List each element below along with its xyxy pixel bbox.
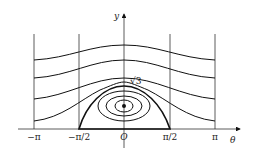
tick-half-pi: π/2 <box>163 132 178 142</box>
flow-curves <box>34 45 215 121</box>
theta-axis-label: θ <box>230 135 236 145</box>
equilibrium-point <box>122 104 126 108</box>
origin-label: O <box>120 132 128 142</box>
tick-neg-half-pi: −π/2 <box>68 132 90 142</box>
sqrt3-label: √3 <box>130 76 142 86</box>
tick-neg-pi: −π <box>27 132 41 142</box>
y-axis-label: y <box>113 11 120 21</box>
vertical-lines <box>34 34 215 129</box>
phase-portrait: y θ O −π −π/2 π/2 π √3 <box>0 0 255 157</box>
tick-pi: π <box>212 132 218 142</box>
